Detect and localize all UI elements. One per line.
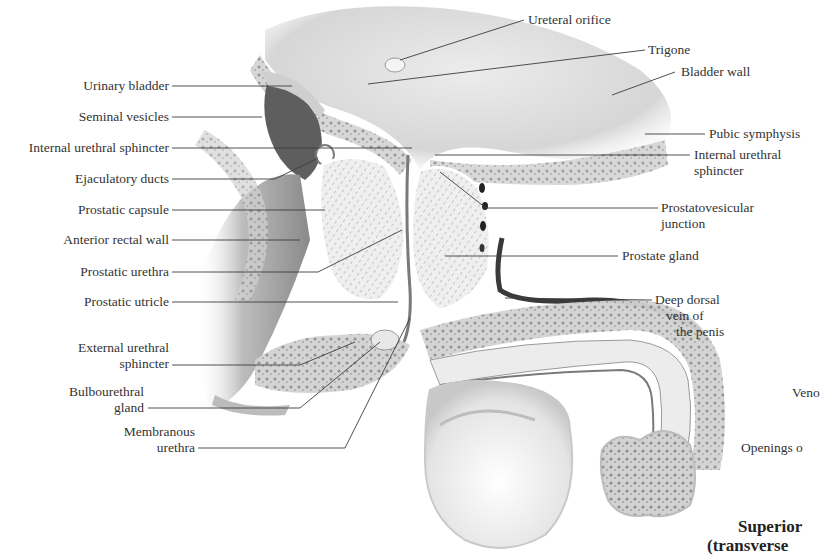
inset-title-line2: (transverse [707,536,802,555]
label-internal-urethral-sphincter-left: Internal urethral sphincter [29,140,169,156]
label-line: sphincter [694,163,781,179]
label-external-urethral-sphincter: External urethral sphincter [78,340,169,372]
label-prostatic-utricle: Prostatic utricle [84,294,169,310]
label-pubic-symphysis: Pubic symphysis [709,126,800,142]
label-prostatic-urethra: Prostatic urethra [80,264,169,280]
label-veno-cropped: Veno [792,385,820,401]
label-line: gland [69,400,144,416]
label-deep-dorsal-vein: Deep dorsal vein of the penis [655,292,741,340]
label-prostatic-capsule: Prostatic capsule [78,202,169,218]
inset-title: Superior (transverse [738,517,802,555]
label-line: Deep dorsal [655,292,741,308]
label-line: urethra [124,440,195,456]
label-internal-urethral-sphincter-right: Internal urethral sphincter [694,147,781,179]
label-bladder-wall: Bladder wall [681,64,750,80]
label-line: sphincter [78,356,169,372]
label-line: Membranous [124,424,195,440]
label-seminal-vesicles: Seminal vesicles [79,109,169,125]
label-membranous-urethra: Membranous urethra [124,424,195,456]
label-line: Prostatovesicular [661,200,754,216]
inset-title-line1: Superior [738,517,802,536]
label-line: Internal urethral [694,147,781,163]
label-ureteral-orifice: Ureteral orifice [528,12,611,28]
label-line: junction [661,216,754,232]
label-line: External urethral [78,340,169,356]
label-urinary-bladder: Urinary bladder [83,78,169,94]
label-prostate-gland: Prostate gland [622,248,699,264]
label-trigone: Trigone [648,42,690,58]
label-bulbourethral-gland: Bulbourethral gland [69,384,144,416]
label-openings-cropped: Openings o [741,440,803,456]
label-anterior-rectal-wall: Anterior rectal wall [63,232,169,248]
label-ejaculatory-ducts: Ejaculatory ducts [75,171,169,187]
label-prostatovesicular-junction: Prostatovesicular junction [661,200,754,232]
label-line: vein of [655,308,741,324]
label-line: Bulbourethral [69,384,144,400]
label-line: the penis [655,324,741,340]
